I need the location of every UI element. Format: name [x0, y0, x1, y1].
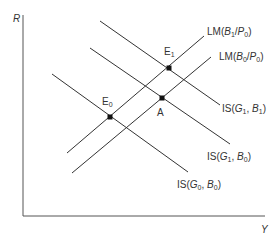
y-axis-label: R: [13, 14, 20, 24]
is-curve-g1-b1: [100, 21, 220, 105]
is-curve-g0-b0: [52, 74, 188, 172]
label-is-g0-b0: IS(G0, B0): [177, 180, 221, 191]
label-e1: E1: [164, 47, 175, 58]
label-e0: E0: [102, 97, 113, 108]
point-a: [160, 96, 165, 101]
x-axis-label: Y: [261, 225, 268, 235]
point-e0: [108, 115, 113, 120]
label-is-g1-b1: IS(G1, B1): [222, 104, 266, 115]
label-lm-b1-p0: LM(B1/P0): [207, 27, 252, 38]
point-e1: [167, 66, 172, 71]
label-a: A: [157, 108, 164, 118]
label-lm-b0-p0: LM(B0/P0): [219, 52, 264, 63]
lm-curve-b1-p0: [67, 36, 204, 153]
lm-curve-b0-p0: [72, 57, 211, 173]
label-is-g1-b0: IS(G1, B0): [207, 152, 251, 163]
